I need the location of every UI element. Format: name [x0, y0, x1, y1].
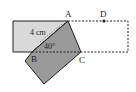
- point-d-dot: [102, 19, 105, 22]
- label-b: B: [31, 54, 37, 64]
- label-length: 4 cm: [30, 28, 47, 37]
- fold-diagram: A D 4 cm 40° B C: [0, 0, 136, 92]
- label-c: C: [79, 55, 85, 65]
- label-a: A: [65, 9, 72, 19]
- label-angle: 40°: [44, 42, 55, 51]
- label-d: D: [100, 9, 107, 19]
